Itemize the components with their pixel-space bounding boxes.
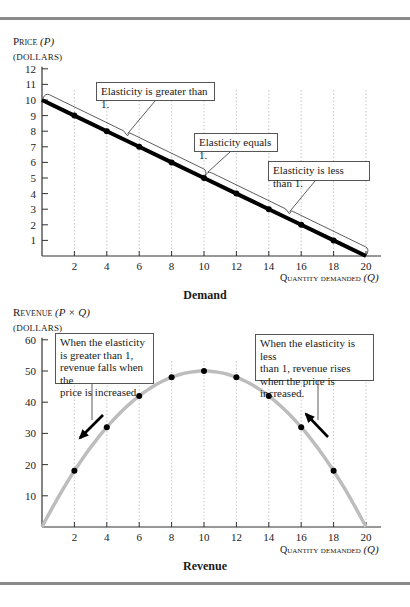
pointer-elastic: [128, 101, 155, 134]
demand-point: [266, 206, 272, 212]
demand-y-axis-title: Price (P): [13, 35, 54, 47]
revenue-point: [71, 468, 77, 474]
revenue-point: [104, 424, 110, 430]
demand-y-tick-label: 2: [31, 219, 37, 231]
revenue-x-tick-label: 12: [231, 531, 242, 543]
demand-y-tick-label: 10: [25, 94, 37, 106]
demand-y-tick-label: 1: [31, 234, 37, 246]
revenue-y-tick-label: 20: [25, 459, 37, 471]
revenue-x-tick-label: 6: [136, 531, 142, 543]
revenue-y-axis-label: Revenue: [13, 306, 52, 318]
revenue-x-tick-label: 14: [263, 531, 275, 543]
revenue-x-tick-label: 10: [199, 531, 211, 543]
demand-x-axis-var: (Q): [363, 271, 378, 283]
demand-point: [71, 113, 77, 119]
revenue-caption: Revenue: [0, 559, 410, 574]
demand-caption: Demand: [0, 288, 410, 303]
demand-y-tick-label: 6: [31, 156, 37, 168]
annotation-inelastic: Elasticity is less than 1.: [268, 161, 370, 181]
revenue-x-tick-label: 16: [296, 531, 308, 543]
demand-point: [136, 144, 142, 150]
pointer-unit-elastic: [208, 152, 230, 172]
demand-point: [169, 159, 175, 165]
demand-x-tick-label: 2: [72, 260, 78, 272]
demand-x-tick-label: 6: [136, 260, 142, 272]
demand-y-axis-label: Price: [13, 35, 37, 47]
revenue-x-axis-var: (Q): [363, 543, 378, 555]
revenue-y-tick-label: 60: [25, 334, 37, 346]
demand-point: [233, 191, 239, 197]
demand-y-tick-label: 11: [25, 78, 36, 90]
revenue-point: [233, 374, 239, 380]
annotation-inelastic-revenue: When the elasticity is less than 1, reve…: [255, 334, 374, 381]
revenue-x-tick-label: 20: [361, 531, 373, 543]
demand-y-tick-label: 5: [31, 172, 37, 184]
demand-y-tick-label: 7: [31, 141, 37, 153]
demand-point: [331, 237, 337, 243]
demand-x-tick-label: 10: [199, 260, 211, 272]
revenue-x-axis-label: Quantity demanded: [280, 544, 361, 555]
demand-x-axis-title: Quantity demanded (Q): [280, 271, 379, 283]
revenue-y-tick-label: 30: [25, 427, 37, 439]
annotation-elastic: Elasticity is greater than 1.: [96, 82, 215, 101]
revenue-point: [298, 424, 304, 430]
revenue-point: [169, 374, 175, 380]
revenue-y-tick-label: 50: [25, 365, 37, 377]
annotation-elastic-revenue: When the elasticity is greater than 1, r…: [55, 333, 154, 384]
brace-elastic: [43, 94, 206, 176]
revenue-x-axis-title: Quantity demanded (Q): [280, 543, 379, 555]
demand-x-tick-label: 4: [104, 260, 110, 272]
demand-x-axis-label: Quantity demanded: [280, 272, 361, 283]
demand-y-tick-label: 12: [25, 63, 36, 75]
revenue-point: [201, 368, 207, 374]
demand-y-tick-label: 8: [31, 125, 37, 137]
demand-y-axis-var: (P): [40, 35, 54, 47]
demand-point: [298, 222, 304, 228]
demand-y-tick-label: 9: [31, 110, 37, 122]
revenue-point: [331, 468, 337, 474]
demand-y-tick-label: 3: [31, 203, 37, 215]
demand-y-tick-label: 4: [31, 188, 37, 200]
revenue-y-tick-label: 10: [25, 490, 37, 502]
demand-point: [201, 175, 207, 181]
revenue-y-units: (DOLLARS): [13, 323, 62, 333]
annotation-unit-elastic: Elasticity equals 1.: [194, 133, 278, 152]
demand-y-units: (DOLLARS): [13, 52, 62, 62]
demand-x-tick-label: 14: [263, 260, 275, 272]
revenue-x-tick-label: 18: [328, 531, 340, 543]
revenue-y-axis-title: Revenue (P × Q): [13, 306, 90, 318]
revenue-x-tick-label: 8: [169, 531, 175, 543]
revenue-x-tick-label: 4: [104, 531, 110, 543]
demand-point: [104, 128, 110, 134]
revenue-x-tick-label: 2: [72, 531, 78, 543]
demand-x-tick-label: 12: [231, 260, 242, 272]
revenue-y-tick-label: 40: [25, 396, 37, 408]
revenue-y-axis-var: (P × Q): [55, 306, 90, 318]
demand-x-tick-label: 8: [169, 260, 175, 272]
